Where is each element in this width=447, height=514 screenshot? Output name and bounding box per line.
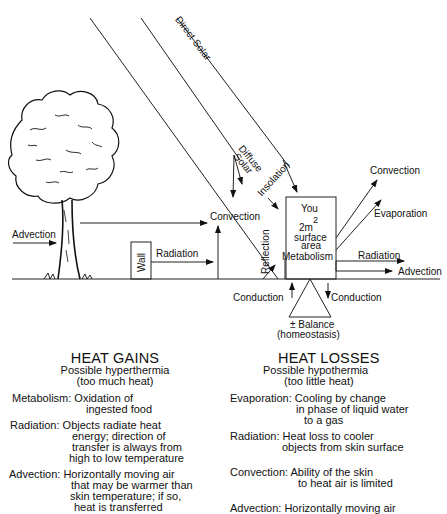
heat-losses-section: HEAT LOSSES Possible hypothermia (too li… bbox=[230, 351, 445, 514]
reflection-label: Reflection bbox=[260, 230, 271, 274]
advection-right-label: Advection bbox=[398, 266, 442, 277]
heat-gain-radiation: Radiation: Objects radiate heat energy; … bbox=[8, 420, 222, 464]
area-exponent: 2 bbox=[313, 215, 318, 225]
conduction-left-label: Conduction bbox=[233, 292, 284, 303]
entry-line: Advection: Horizontally moving air bbox=[230, 503, 445, 514]
heat-loss-evaporation: Evaporation: Cooling by change in phase … bbox=[230, 393, 445, 426]
entry-line: high to low temperature bbox=[8, 453, 222, 464]
you-label: You bbox=[301, 203, 318, 214]
heat-loss-convection: Convection: Ability of the skin to heat … bbox=[230, 467, 445, 489]
conduction-right-label: Conduction bbox=[331, 292, 382, 303]
entry-line: ingested food bbox=[8, 404, 222, 415]
heat-gains-section: HEAT GAINS Possible hyperthermia (too mu… bbox=[8, 351, 222, 513]
homeostasis-label: (homeostasis) bbox=[277, 329, 340, 340]
evaporation-label: Evaporation bbox=[374, 208, 427, 219]
heat-gain-metabolism: Metabolism: Oxidation of ingested food bbox=[8, 393, 222, 415]
heat-loss-advection: Advection: Horizontally moving air bbox=[230, 503, 445, 514]
heat-losses-title: HEAT LOSSES bbox=[230, 351, 445, 365]
heat-gains-title: HEAT GAINS bbox=[8, 351, 222, 365]
advection-left-label: Advection bbox=[12, 229, 56, 240]
heat-gain-advection: Advection: Horizontally moving air that … bbox=[8, 469, 222, 513]
heat-gains-subtitle2: (too much heat) bbox=[8, 376, 222, 387]
heat-loss-radiation: Radiation: Heat loss to cooler objects f… bbox=[230, 431, 445, 453]
convection-middle-label: Convection bbox=[210, 211, 260, 222]
tree-icon bbox=[9, 91, 119, 279]
area-label: area bbox=[301, 240, 321, 251]
entry-line: to a gas bbox=[230, 415, 445, 426]
wall-label: Wall bbox=[136, 253, 147, 272]
entry-line: to heat air is limited bbox=[230, 478, 445, 489]
entry-line: heat is transferred bbox=[8, 502, 222, 513]
entry-line: objects from skin surface bbox=[230, 442, 445, 453]
metabolism-label: Metabolism bbox=[282, 251, 333, 262]
heat-losses-subtitle2: (too little heat) bbox=[230, 376, 445, 387]
radiation-right-label: Radiation bbox=[358, 250, 400, 261]
convection-top-right-label: Convection bbox=[370, 165, 420, 176]
radiation-left-label: Radiation bbox=[156, 248, 198, 259]
